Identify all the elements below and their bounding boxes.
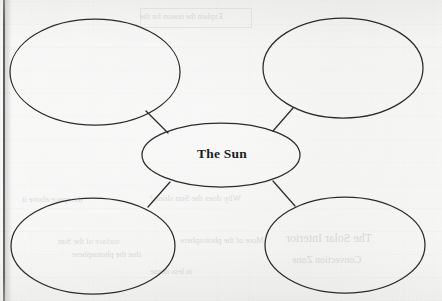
- node-center-label: The Sun: [197, 146, 247, 161]
- node-bottom-right[interactable]: [265, 197, 425, 293]
- connector-bottom-right: [273, 181, 295, 206]
- node-top-right[interactable]: [263, 18, 423, 118]
- concept-map-diagram: The Sun: [0, 0, 442, 301]
- scanned-worksheet-page: Explain the reason for the the space abo…: [0, 0, 442, 301]
- connector-bottom-left: [148, 182, 170, 207]
- connector-top-right: [273, 108, 293, 131]
- connector-top-left: [146, 111, 168, 133]
- node-bottom-left[interactable]: [11, 198, 175, 294]
- node-top-left[interactable]: [10, 19, 180, 125]
